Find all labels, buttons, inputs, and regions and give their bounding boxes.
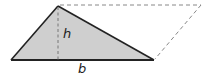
- diagram-canvas: h b: [0, 0, 212, 76]
- triangle-parallelogram-diagram: h b: [0, 0, 212, 76]
- triangle: [11, 6, 154, 60]
- base-label: b: [78, 61, 86, 76]
- height-label: h: [63, 26, 71, 41]
- parallelogram-right-edge: [155, 5, 201, 59]
